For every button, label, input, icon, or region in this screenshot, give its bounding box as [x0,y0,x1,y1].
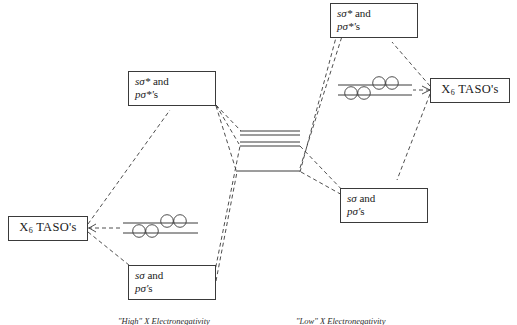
right-bonding-line2: pσ's [347,205,421,218]
left-caption: "High" X Electronegativity [118,316,210,325]
left-bonding-box[interactable]: sσ and pσ's [128,265,216,300]
left-antibonding-line2: pσ*'s [135,88,209,101]
left-bonding-line1: sσ and [135,269,209,282]
left-bonding-line2: pσ's [135,282,209,295]
right-x6-taso-label: X6 TASO's [441,82,498,97]
left-antibonding-line1: sσ* and [135,75,209,88]
right-caption: "Low" X Electronegativity [296,316,385,325]
right-antibonding-line2: pσ*'s [337,20,411,33]
left-x6-taso-label: X6 TASO's [19,220,76,235]
center-to-right-antibonding-lines [300,30,344,172]
left-taso-correlation-lines [88,110,170,282]
left-antibonding-box[interactable]: sσ* and pσ*'s [128,71,216,106]
right-taso-correlation-lines [392,42,430,180]
left-antibonding-correlation-lines [216,105,241,170]
center-upper-level-stack [240,131,300,146]
mo-diagram-canvas: X6 TASO's X6 TASO's sσ* and pσ*'s sσ and… [0,0,517,325]
left-bonding-correlation-lines [213,146,240,281]
diagram-lines-layer [0,0,517,325]
right-antibonding-box[interactable]: sσ* and pσ*'s [330,3,418,38]
right-bonding-line1: sσ and [347,192,421,205]
left-x6-taso-box[interactable]: X6 TASO's [8,216,88,241]
right-x6-taso-box[interactable]: X6 TASO's [430,78,510,103]
right-taso-level-pair [338,77,412,100]
right-antibonding-line1: sσ* and [337,7,411,20]
right-bonding-box[interactable]: sσ and pσ's [340,188,428,223]
left-taso-level-pair [123,215,198,238]
